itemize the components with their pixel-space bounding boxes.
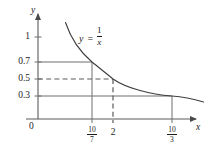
origin-label: 0	[29, 122, 34, 132]
equation-denominator: x	[97, 38, 102, 47]
x-tick-label-10-7: 10 7	[82, 126, 102, 144]
equation-fraction: 1 x	[97, 26, 102, 47]
equation-numerator: 1	[97, 26, 102, 35]
fraction-denominator: 3	[167, 136, 177, 144]
fraction-numerator: 10	[87, 126, 97, 134]
fraction-denominator: 7	[87, 136, 97, 144]
fraction-numerator: 10	[167, 126, 177, 134]
equation-equals-sign: =	[87, 33, 93, 44]
curve-equation-label: y = 1 x	[79, 26, 102, 47]
equation-lhs: y	[79, 33, 83, 44]
fraction-10-7: 10 7	[87, 126, 97, 144]
fraction-10-3: 10 3	[167, 126, 177, 144]
y-axis-label: y	[31, 6, 35, 16]
y-tick-label-0-5: 0.5	[0, 74, 30, 84]
graph-figure: y x 0 1 0.7 0.5 0.3 10 7 2 10 3 y = 1 x	[0, 0, 210, 154]
y-tick-label-0-3: 0.3	[0, 91, 30, 101]
x-axis-label: x	[196, 123, 200, 133]
y-tick-label-1: 1	[6, 32, 30, 42]
x-tick-label-2: 2	[104, 128, 122, 138]
y-tick-label-0-7: 0.7	[0, 57, 30, 67]
x-tick-label-10-3: 10 3	[162, 126, 182, 144]
